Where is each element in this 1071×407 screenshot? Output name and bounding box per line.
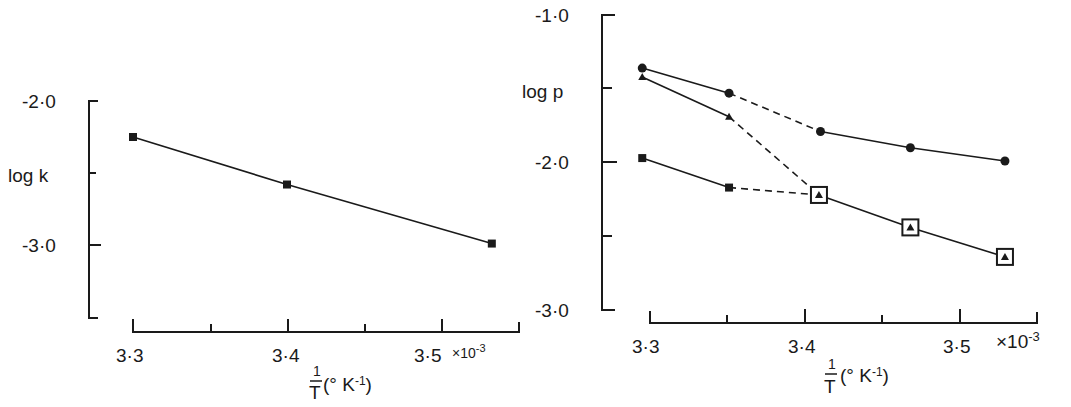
left-x-axis-label: 1 T (° K-1) xyxy=(309,363,372,403)
series-segment xyxy=(729,188,819,195)
square-marker xyxy=(283,181,291,189)
left-x-tick-label: 3·5 xyxy=(414,345,441,366)
right-x-axis xyxy=(650,311,1037,323)
circle-marker xyxy=(906,143,915,152)
left-y-axis xyxy=(89,101,98,318)
right-x-tick-label: 3·4 xyxy=(788,336,816,357)
svg-text:(° K-1): (° K-1) xyxy=(840,365,889,386)
left-x-multiplier: ×10-3 xyxy=(452,342,486,361)
square-marker xyxy=(129,133,137,141)
right-chart-log-p: -1·0 -2·0 -3·0 log p 3·3 3·4 3·5 ×10-3 1… xyxy=(522,5,1040,397)
circle-marker xyxy=(1000,157,1009,166)
left-x-tick-label: 3·4 xyxy=(272,345,300,366)
right-y-tick-label: -3·0 xyxy=(535,300,569,321)
series-segment xyxy=(729,117,819,195)
right-data-series xyxy=(638,64,1013,265)
left-x-axis xyxy=(133,319,519,332)
series-segment xyxy=(729,93,820,131)
svg-text:1: 1 xyxy=(828,356,836,372)
triangle-marker xyxy=(638,73,646,80)
left-data-series xyxy=(129,133,496,248)
svg-text:1: 1 xyxy=(313,363,321,379)
square-marker xyxy=(488,240,496,248)
left-y-axis-label: log k xyxy=(8,165,49,186)
series-segment xyxy=(910,148,1005,161)
series-segment xyxy=(819,195,910,227)
svg-text:T: T xyxy=(309,382,321,403)
left-y-tick-label: -3·0 xyxy=(22,235,56,256)
square-marker xyxy=(638,154,646,162)
left-y-tick-label: -2·0 xyxy=(22,91,56,112)
right-y-axis-label: log p xyxy=(522,81,563,102)
right-x-multiplier: ×10-3 xyxy=(996,329,1040,352)
series-segment xyxy=(821,132,911,148)
right-x-axis-label: 1 T (° K-1) xyxy=(824,356,889,397)
square-marker xyxy=(725,184,733,192)
right-y-tick-label: -1·0 xyxy=(535,5,569,26)
circle-marker xyxy=(638,64,647,73)
figure: -2·0 -3·0 log k 3·3 3·4 3·5 ×10-3 1 T (°… xyxy=(0,0,1071,407)
series-segment xyxy=(642,77,729,117)
left-x-tick-label: 3·3 xyxy=(116,345,143,366)
circle-marker xyxy=(816,127,825,136)
right-y-tick-label: -2·0 xyxy=(535,152,569,173)
svg-text:(° K-1): (° K-1) xyxy=(323,374,372,395)
series-segment xyxy=(910,227,1005,257)
right-x-tick-label: 3·5 xyxy=(943,336,970,357)
series-segment xyxy=(133,137,287,185)
series-circles xyxy=(638,64,1010,166)
svg-text:T: T xyxy=(824,376,836,397)
series-squares xyxy=(638,154,823,199)
left-chart-log-k: -2·0 -3·0 log k 3·3 3·4 3·5 ×10-3 1 T (°… xyxy=(8,91,519,403)
series-segment xyxy=(642,68,729,93)
series-k xyxy=(129,133,496,248)
series-triangles xyxy=(638,73,1013,265)
series-segment xyxy=(287,185,492,244)
circle-marker xyxy=(725,89,734,98)
series-segment xyxy=(642,158,729,188)
right-x-tick-label: 3·3 xyxy=(632,336,659,357)
